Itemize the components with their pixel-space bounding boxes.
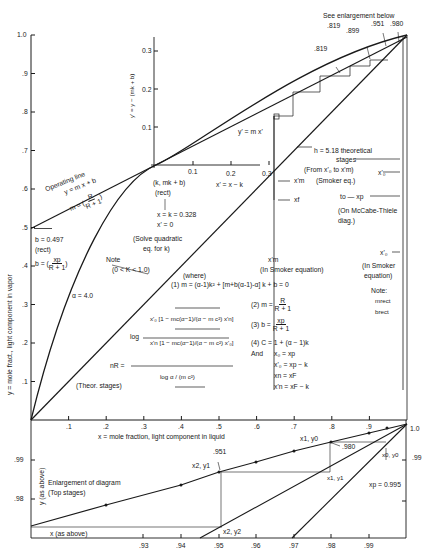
enl-x-tick: .94	[176, 542, 185, 549]
theor-stages-label: (Theor. stages)	[76, 382, 122, 389]
in-smoker-label-2: equation)	[364, 272, 392, 279]
smoker-nr: nR =	[110, 362, 125, 369]
smoker-den: log α / (m c²)	[160, 374, 195, 381]
stage-label-899: .899	[346, 27, 359, 34]
inset-x-tick: 0.3	[262, 170, 271, 177]
m-rect-label: mrect	[375, 298, 390, 305]
note-where: (where)	[183, 272, 206, 279]
diagram-canvas	[0, 0, 427, 554]
alpha-label: α = 4.0	[72, 292, 93, 299]
mccabe-label-2: diag.)	[338, 217, 355, 224]
note-title: Note	[106, 256, 120, 263]
inset-y-tick: 0.3	[142, 47, 151, 54]
x-tick: .7	[291, 423, 297, 430]
see-enlargement-label: See enlargement below	[323, 12, 394, 19]
b-rect-label: (rect)	[35, 246, 51, 253]
enl-val-951: .951	[213, 448, 226, 455]
and-item: x'₀ = xp − k	[274, 361, 308, 368]
y-tick: .7	[22, 147, 28, 154]
xm-prime-arrow-label: x'm	[294, 177, 304, 184]
enlargement-x-axis-label: x (as above)	[50, 530, 87, 537]
xprime-zero-label: x' = 0	[157, 221, 173, 228]
x-tick: .3	[141, 423, 147, 430]
inset-y-axis-label: y' = y − (mk + b)	[129, 74, 136, 118]
x-tick: .6	[254, 423, 260, 430]
enl-val-980: .980	[342, 443, 355, 450]
point-x1y1: x1, y1	[327, 475, 344, 482]
enlargement-title: Enlargement of diagram	[48, 479, 121, 486]
main-y-axis-label: y = mole fract., light component in vapo…	[6, 274, 13, 395]
point-x2y2: x2, y2	[223, 528, 241, 535]
xf-label: xf	[294, 196, 299, 203]
stage-label-819b: .819	[314, 45, 327, 52]
solve-quadratic-label-2: eq. for k)	[143, 245, 170, 252]
smoker-eq-label: (Smoker eq.)	[316, 177, 355, 184]
inset-x-tick: 0.2	[226, 170, 235, 177]
inset-y-tick: 0.1	[142, 124, 151, 131]
stage-label-980: .980	[390, 20, 403, 27]
b-eq-label: b = (xpR + 1)	[35, 256, 68, 272]
y-tick: .4	[22, 262, 28, 269]
and-item: xn = xF	[274, 372, 296, 379]
h-stages-label: h = 5.18 theoretical	[314, 147, 372, 154]
enlargement-subtitle: (Top stages)	[48, 489, 85, 496]
enl-x-tick: .96	[251, 542, 260, 549]
intersection-rect: (rect)	[155, 189, 171, 196]
enl-x-tick: .93	[139, 542, 148, 549]
in-smoker-eq-label: (In Smoker equation)	[260, 266, 323, 273]
y-tick: .3	[22, 301, 28, 308]
and-label: And	[251, 350, 263, 357]
y-tick: .2	[22, 339, 28, 346]
point-x2y1: x2, y1	[192, 462, 210, 469]
point-x0y0: x0, y0	[382, 452, 399, 459]
smoker-log: log	[130, 333, 139, 340]
and-item: x'n = xF − k	[274, 383, 309, 390]
y-tick: .6	[22, 185, 28, 192]
and-item: x₀ = xp	[274, 350, 295, 357]
main-y-ticks	[31, 35, 35, 382]
diagonal-line	[31, 35, 407, 420]
x-tick: .1	[66, 423, 72, 430]
smoker-num-bot: x'n [1 − mc(α−1)/(α − m c²) x'₀]	[150, 340, 233, 347]
h-stages-label-2: stages	[336, 156, 356, 163]
b-value-label: b = 0.497	[35, 236, 64, 243]
note-right-title: Note:	[371, 287, 387, 294]
enl-y-tick-left: .99	[14, 456, 23, 463]
b-rect-label-right: brect	[375, 309, 389, 316]
solve-quadratic-label: (Solve quadratic	[133, 235, 182, 242]
x-tick: .2	[103, 423, 109, 430]
equation-4: (4) C = 1 + (α − 1)k	[251, 339, 309, 346]
point-x1y0: x1, y0	[300, 435, 318, 442]
stage-label-951: .951	[371, 20, 384, 27]
enl-x-tick: .97	[289, 542, 298, 549]
enl-x-tick: .95	[214, 542, 223, 549]
x-tick: .5	[216, 423, 222, 430]
y-tick: .9	[22, 70, 28, 77]
enl-y-tick-left: .98	[14, 495, 23, 502]
y-tick: 1.0	[17, 31, 26, 38]
equation-2: (2) m = RR + 1	[251, 297, 291, 313]
enl-x-tick: .99	[364, 542, 373, 549]
k-value-label: x = k = 0.328	[157, 211, 196, 218]
equation-3: (3) b = xpR + 1	[251, 317, 289, 333]
enl-x-tick: .98	[326, 542, 335, 549]
main-x-axis-label: x = mole fraction, light component in li…	[98, 433, 225, 440]
equation-1: (1) m = (α-1)k² + [m+b(α-1)-α] k + b = 0	[171, 281, 289, 288]
x0-prime-label: x'₀	[378, 169, 386, 176]
main-x-ticks	[69, 416, 370, 420]
x-tick: .9	[366, 423, 372, 430]
in-smoker-label: (In Smoker	[362, 262, 395, 269]
from-label: (From x'₀ to x'm)	[304, 166, 354, 173]
inset-y-tick: 0.2	[142, 86, 151, 93]
xm-bottom-label: x'm	[268, 256, 278, 263]
stage-label-819: .819	[327, 22, 340, 29]
enl-y-tick-right: .99	[412, 454, 421, 461]
x-tick: .8	[329, 423, 335, 430]
y-tick: .5	[22, 224, 28, 231]
intersection-label: (k, mk + b)	[153, 179, 185, 186]
enlargement-y-axis-label: y (as above)	[38, 468, 45, 505]
x-tick: 1.0	[410, 425, 419, 432]
x0-prime-label-2: x'₀	[380, 249, 388, 256]
smoker-num-top: x'₀ [1 − mc(α−1)/(α − m c²) x'n]	[150, 316, 233, 323]
x-tick: .4	[178, 423, 184, 430]
